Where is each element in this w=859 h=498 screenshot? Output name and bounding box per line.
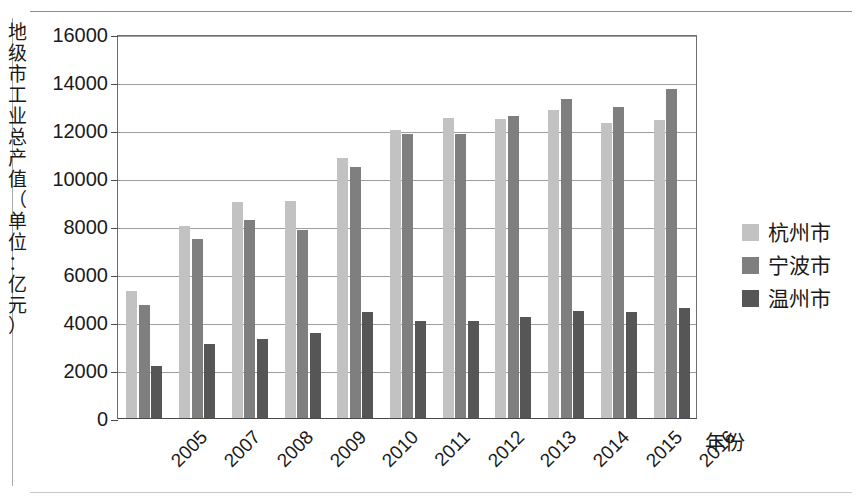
chart-legend: 杭州市宁波市温州市 <box>742 216 854 315</box>
bar[interactable] <box>362 312 373 418</box>
legend-item[interactable]: 温州市 <box>742 282 854 315</box>
y-axis-tick-labels: 0200040006000800010000120001400016000 <box>34 22 112 432</box>
x-axis-tick-label: 2010 <box>379 427 422 470</box>
bar[interactable] <box>520 317 531 418</box>
y-axis-title-char: 业 <box>2 106 32 127</box>
bar[interactable] <box>508 116 519 418</box>
y-axis-title-char: 位 <box>2 232 32 253</box>
bar[interactable] <box>402 134 413 418</box>
bar-group <box>645 36 698 418</box>
y-axis-tick-label: 0 <box>97 409 108 429</box>
legend-swatch-icon <box>742 290 759 307</box>
bar[interactable] <box>257 339 268 418</box>
bar[interactable] <box>126 291 137 418</box>
legend-label: 宁波市 <box>768 255 831 276</box>
bar[interactable] <box>468 321 479 418</box>
bar-group <box>382 36 435 418</box>
y-axis-title: 地级市工业总产值（单位：亿元） <box>2 22 32 382</box>
bar[interactable] <box>666 89 677 418</box>
x-axis-tick-label: 2014 <box>590 427 633 470</box>
y-axis-tick-mark <box>111 36 118 37</box>
y-axis-tick-label: 14000 <box>52 73 108 93</box>
y-axis-title-char: 工 <box>2 85 32 106</box>
bar[interactable] <box>350 167 361 418</box>
legend-swatch-icon <box>742 224 759 241</box>
y-axis-title-char: 亿 <box>2 274 32 295</box>
legend-swatch-icon <box>742 257 759 274</box>
bar[interactable] <box>455 134 466 418</box>
x-axis-tick-label: 2011 <box>431 427 473 469</box>
bar[interactable] <box>626 312 637 418</box>
bar-group <box>223 36 276 418</box>
legend-item[interactable]: 宁波市 <box>742 249 854 282</box>
x-axis-tick-label: 2015 <box>642 427 685 470</box>
y-axis-title-char: 元 <box>2 295 32 316</box>
x-axis-tick-label: 2012 <box>484 427 527 470</box>
bar[interactable] <box>561 99 572 418</box>
y-axis-tick-mark <box>111 276 118 277</box>
y-axis-title-char: 总 <box>2 127 32 148</box>
bar-group <box>118 36 171 418</box>
x-axis-tick-labels: 2005200720082009201020112012201320142015… <box>117 419 697 489</box>
bar-group <box>593 36 646 418</box>
legend-label: 杭州市 <box>768 222 831 243</box>
bar[interactable] <box>204 344 215 418</box>
x-axis-tick-label: 2007 <box>220 427 263 470</box>
bar-chart: 地级市工业总产值（单位：亿元） 020004000600080001000012… <box>0 0 859 498</box>
x-axis-tick-label: 2013 <box>537 427 580 470</box>
y-axis-tick-mark <box>111 372 118 373</box>
bar-group <box>487 36 540 418</box>
bar[interactable] <box>613 107 624 418</box>
y-axis-title-char: 产 <box>2 148 32 169</box>
bar[interactable] <box>443 118 454 418</box>
y-axis-title-char: 地 <box>2 22 32 43</box>
bar[interactable] <box>573 311 584 418</box>
y-axis-title-char: 值 <box>2 169 32 190</box>
x-axis-tick-label: 2005 <box>168 427 211 470</box>
x-axis-tick-label: 2008 <box>273 427 316 470</box>
bar[interactable] <box>310 333 321 418</box>
bar[interactable] <box>232 202 243 418</box>
bar[interactable] <box>151 366 162 418</box>
bar[interactable] <box>654 120 665 418</box>
bar[interactable] <box>337 158 348 418</box>
bar-group <box>276 36 329 418</box>
bar-group <box>329 36 382 418</box>
plot-area <box>117 35 697 419</box>
y-axis-title-char: ） <box>2 316 32 337</box>
bar[interactable] <box>192 239 203 418</box>
bar[interactable] <box>679 308 690 418</box>
legend-item[interactable]: 杭州市 <box>742 216 854 249</box>
bar[interactable] <box>179 226 190 418</box>
bar-group <box>540 36 593 418</box>
bar[interactable] <box>601 123 612 418</box>
bar[interactable] <box>415 321 426 418</box>
y-axis-tick-label: 16000 <box>52 25 108 45</box>
y-axis-tick-label: 12000 <box>52 121 108 141</box>
y-axis-title-char: （ <box>2 190 32 211</box>
y-axis-tick-mark <box>111 180 118 181</box>
bar[interactable] <box>495 119 506 418</box>
bar[interactable] <box>285 201 296 418</box>
y-axis-tick-mark <box>111 132 118 133</box>
bar[interactable] <box>244 220 255 418</box>
y-axis-tick-label: 4000 <box>64 313 109 333</box>
y-axis-tick-label: 2000 <box>64 361 109 381</box>
y-axis-tick-label: 8000 <box>64 217 109 237</box>
bar-group <box>434 36 487 418</box>
x-axis-title: 年份 <box>705 432 745 454</box>
bar[interactable] <box>548 110 559 418</box>
y-axis-tick-mark <box>111 228 118 229</box>
y-axis-title-char: 单 <box>2 211 32 232</box>
bar[interactable] <box>390 130 401 418</box>
y-axis-title-char: ： <box>2 253 32 274</box>
bar[interactable] <box>139 305 150 418</box>
y-axis-tick-label: 10000 <box>52 169 108 189</box>
x-axis-tick-label: 2009 <box>326 427 369 470</box>
y-axis-tick-label: 6000 <box>64 265 109 285</box>
legend-label: 温州市 <box>768 288 831 309</box>
bars-layer <box>118 36 696 418</box>
y-axis-tick-mark <box>111 84 118 85</box>
bar[interactable] <box>297 230 308 418</box>
y-axis-title-char: 市 <box>2 64 32 85</box>
